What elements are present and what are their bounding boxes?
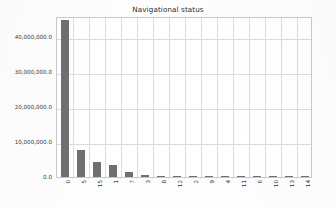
x-tick-label: 4	[226, 180, 232, 184]
plot-area	[56, 17, 312, 178]
y-tick-label: 20,000,000.0	[15, 105, 52, 111]
chart-figure: Navigational status 0.010,000,000.020,00…	[0, 0, 336, 208]
x-tick-label: 2	[194, 180, 200, 184]
bar	[173, 176, 181, 177]
bar	[285, 176, 293, 177]
y-tick-label: 30,000,000.0	[15, 70, 52, 76]
bar	[221, 176, 229, 177]
bar	[237, 176, 245, 177]
y-axis-tick-labels: 0.010,000,000.020,000,000.030,000,000.04…	[0, 17, 52, 178]
x-tick-label: 3	[146, 180, 152, 184]
y-tick-label: 10,000,000.0	[15, 140, 52, 146]
x-tick-label: 12	[178, 180, 184, 187]
bar	[77, 150, 85, 177]
x-tick-label: 5	[82, 180, 88, 184]
bar	[61, 20, 69, 178]
bar	[93, 162, 101, 177]
x-tick-label: 6	[258, 180, 264, 184]
x-tick-label: 9	[210, 180, 216, 184]
bar	[109, 165, 117, 177]
bar	[205, 176, 213, 177]
x-tick-label: 7	[130, 180, 136, 184]
x-tick-label: 15	[98, 180, 104, 187]
bar	[253, 176, 261, 177]
y-tick-label: 40,000,000.0	[15, 35, 52, 41]
x-tick-label: 14	[306, 180, 312, 187]
bar-series	[57, 18, 311, 177]
x-tick-label: 0	[66, 180, 72, 184]
bar	[269, 176, 277, 177]
chart-title: Navigational status	[0, 5, 336, 14]
x-tick-label: 1	[114, 180, 120, 184]
x-tick-label: 10	[274, 180, 280, 187]
x-tick-label: 8	[162, 180, 168, 184]
bar	[189, 176, 197, 177]
x-axis-tick-labels: 0515173812294116101314	[56, 180, 312, 206]
x-tick-label: 11	[242, 180, 248, 187]
bar	[157, 176, 165, 177]
bar	[301, 176, 309, 177]
bar	[141, 175, 149, 177]
x-tick-label: 13	[290, 180, 296, 187]
y-tick-label: 0.0	[43, 175, 52, 181]
bar	[125, 172, 133, 177]
